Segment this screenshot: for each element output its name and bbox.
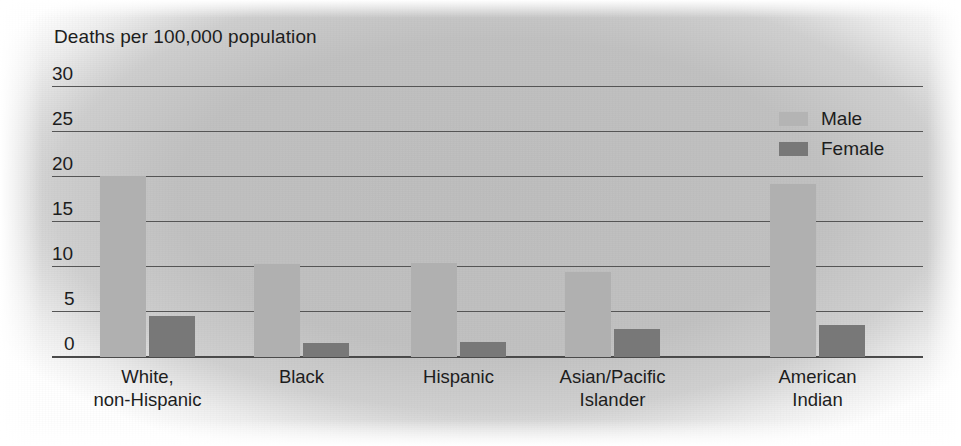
- bar-female-group-4: [819, 325, 865, 357]
- y-axis-tick-label-20: 20: [52, 154, 73, 173]
- legend-label-male: Male: [821, 108, 862, 130]
- bar-male-group-2: [411, 263, 457, 357]
- bar-male-group-4: [770, 184, 816, 357]
- bar-female-group-2: [460, 342, 506, 357]
- gridline-30: [52, 86, 923, 87]
- y-axis-tick-label-5: 5: [64, 289, 75, 308]
- bar-female-group-3: [614, 329, 660, 357]
- bar-male-group-1: [254, 264, 300, 357]
- legend-swatch-female-icon: [779, 142, 808, 156]
- y-axis-tick-label-30: 30: [52, 64, 73, 83]
- plot-area: 051015202530White, non-HispanicBlackHisp…: [0, 0, 961, 446]
- bar-male-group-3: [565, 272, 611, 357]
- y-axis-tick-label-10: 10: [52, 244, 73, 263]
- legend-item-male: Male: [779, 104, 884, 134]
- x-axis-category-label-3: Asian/Pacific Islander: [503, 366, 723, 411]
- y-axis-tick-label-0: 0: [64, 334, 75, 353]
- legend-item-female: Female: [779, 134, 884, 164]
- legend-swatch-male-icon: [779, 112, 808, 126]
- chart-page: Deaths per 100,000 population 0510152025…: [0, 0, 961, 446]
- x-axis-category-label-4: American Indian: [708, 366, 928, 411]
- gridline-20: [52, 176, 923, 177]
- legend-label-female: Female: [821, 138, 884, 160]
- bar-male-group-0: [100, 176, 146, 357]
- bar-female-group-1: [303, 343, 349, 357]
- bar-female-group-0: [149, 316, 195, 357]
- y-axis-tick-label-25: 25: [52, 109, 73, 128]
- y-axis-tick-label-15: 15: [52, 199, 73, 218]
- chart-legend: Male Female: [779, 104, 884, 164]
